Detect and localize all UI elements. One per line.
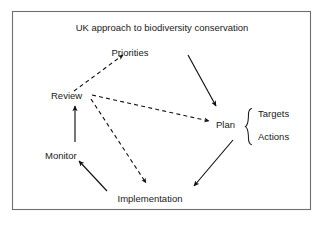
node-review-label: Review (51, 90, 82, 101)
plan-detail-actions-label: Actions (258, 131, 289, 142)
node-monitor-label: Monitor (45, 150, 77, 161)
node-priorities-label: Priorities (112, 47, 149, 58)
diagram-svg: UK approach to biodiversity conservation… (0, 0, 324, 227)
node-plan-label: Plan (216, 119, 235, 130)
plan-detail-targets-label: Targets (258, 108, 289, 119)
node-implementation-label: Implementation (118, 193, 183, 204)
diagram-canvas: UK approach to biodiversity conservation… (0, 0, 324, 227)
diagram-title: UK approach to biodiversity conservation (76, 22, 249, 33)
